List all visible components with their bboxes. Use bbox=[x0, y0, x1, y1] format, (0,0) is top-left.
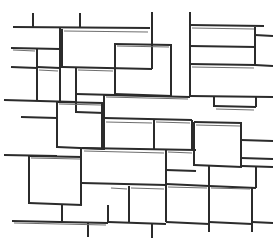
joint-top-left-run bbox=[13, 27, 150, 28]
joint-h-right-edge-f bbox=[252, 222, 273, 223]
joint-h-left-sliver bbox=[21, 117, 57, 118]
joint-h-course4-e bbox=[166, 170, 196, 171]
joint-h-right-a bbox=[190, 46, 256, 47]
joint-h-mid-c bbox=[76, 112, 104, 113]
joint-h-left-b bbox=[37, 67, 60, 68]
joint-h-mid-g bbox=[214, 106, 256, 107]
joint-h-right-edge-b bbox=[255, 65, 273, 66]
joint-top-right-run bbox=[190, 25, 264, 26]
joint-h-left-a bbox=[11, 48, 60, 49]
joint-h-mid-f bbox=[190, 96, 273, 97]
wall-pattern-svg bbox=[0, 0, 273, 246]
joint-h-center-big-top bbox=[114, 44, 172, 45]
joint-h-right-edge-e bbox=[242, 166, 273, 167]
joint-h-right-edge-d bbox=[241, 158, 273, 159]
joint-h-rightlow-top bbox=[194, 122, 242, 123]
joint-h-leftsq-top bbox=[57, 102, 103, 103]
joint-h-right-edge-a bbox=[255, 35, 273, 36]
joint-h-right-b bbox=[190, 64, 256, 65]
masonry-wall-figure: Stone masonry wall pattern Broken range … bbox=[0, 0, 273, 246]
joint-h-course4-b bbox=[29, 156, 82, 157]
joint-h-left-c bbox=[11, 67, 37, 68]
joint-h-right-edge-c bbox=[241, 140, 273, 141]
